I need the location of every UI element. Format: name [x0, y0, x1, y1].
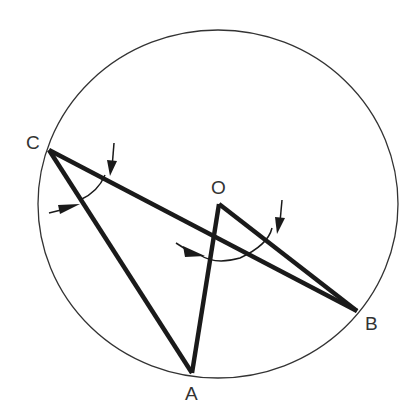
arrow-head-icon: [107, 160, 117, 176]
arrow-head-icon: [183, 246, 205, 257]
geometry-diagram: C O B A: [0, 0, 413, 419]
label-O: O: [211, 177, 226, 198]
arrow-head-icon: [58, 204, 80, 214]
segment-CB: [49, 150, 357, 311]
label-B: B: [365, 313, 378, 334]
segment-CA: [49, 150, 192, 373]
label-C: C: [26, 132, 40, 153]
label-A: A: [185, 383, 198, 404]
arrow-head-icon: [275, 217, 285, 234]
angle-mark-O: [176, 200, 285, 261]
